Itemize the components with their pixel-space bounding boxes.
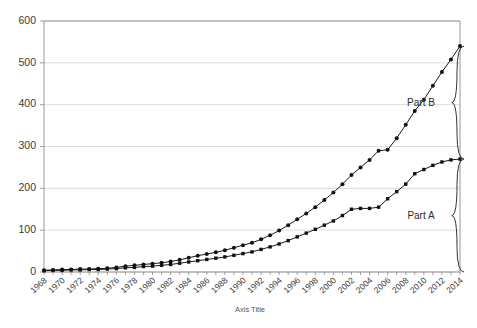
data-point [286,239,289,242]
data-point [51,269,54,272]
y-tick-label: 0 [30,265,36,277]
data-point [313,205,317,209]
data-point [151,264,154,267]
data-point [359,165,363,169]
data-point [214,250,218,254]
data-point [232,246,236,250]
line-chart: 0100200300400500600 19681970197219741976… [0,0,477,328]
data-point [187,256,191,260]
annotation-label-part-b: Part B [407,97,435,108]
data-point [42,269,45,272]
data-point [196,259,199,262]
x-tick-label: 1996 [281,275,302,295]
data-point [178,262,181,265]
data-point [350,208,353,211]
data-point [241,252,244,255]
data-point [395,136,399,140]
data-point [232,254,235,257]
data-point [205,252,209,256]
data-point [250,250,253,253]
data-point [377,149,381,153]
data-point [368,207,371,210]
data-point [431,84,435,88]
x-tick-label: 1992 [245,275,266,295]
data-point [78,268,81,271]
data-point [340,182,344,186]
x-tick-label: 1986 [191,275,212,295]
x-tick-label: 1978 [119,275,140,295]
data-point [440,160,443,163]
y-tick-label: 200 [18,181,36,193]
series-line [44,159,460,271]
data-point [196,254,200,258]
data-point [331,191,335,195]
chart-container: 0100200300400500600 19681970197219741976… [0,0,477,328]
data-point [277,229,281,233]
data-point [304,211,308,215]
data-series [42,44,462,272]
data-point [395,190,398,193]
y-tick-label: 600 [18,14,36,26]
data-point [106,267,109,270]
data-point [440,70,444,74]
data-point [250,241,254,245]
data-point [413,172,416,175]
x-tick-label: 2010 [408,275,429,295]
data-point [341,214,344,217]
x-tick-label: 1984 [173,275,194,295]
data-point [69,268,72,271]
x-tick-label: 1990 [227,275,248,295]
data-point [60,269,63,272]
x-axis-tick-labels: 1968197019721974197619781980198219841986… [28,275,465,295]
data-point [295,217,299,221]
data-point [277,242,280,245]
series-line [44,46,460,270]
data-point [97,268,100,271]
data-point [241,243,245,247]
data-point [268,245,271,248]
x-tick-label: 1994 [263,275,284,295]
data-point [449,158,452,161]
x-tick-label: 1982 [155,275,176,295]
data-point [386,197,389,200]
gridlines [40,21,460,272]
y-axis-tick-labels: 0100200300400500600 [18,14,36,277]
data-point [223,255,226,258]
data-point [160,264,163,267]
data-point [259,237,263,241]
annotation-label-part-a: Part A [407,210,435,221]
data-point [268,233,272,237]
x-tick-label: 2004 [354,275,375,295]
data-point [205,258,208,261]
data-point [332,219,335,222]
data-point [322,198,326,202]
data-point [305,231,308,234]
y-tick-label: 400 [18,97,36,109]
data-point [449,57,453,61]
series-total [42,44,462,272]
x-tick-label: 1968 [28,275,49,295]
data-point [187,260,190,263]
data-point [223,248,227,252]
x-tick-label: 1998 [299,275,320,295]
brace-part-a [452,159,464,272]
series-part-a [42,157,461,272]
y-tick-label: 300 [18,139,36,151]
y-tick-label: 500 [18,56,36,68]
data-point [368,158,372,162]
data-point [142,265,145,268]
data-point [133,266,136,269]
x-tick-label: 2006 [372,275,393,295]
x-tick-label: 1972 [64,275,85,295]
data-point [214,257,217,260]
data-point [115,267,118,270]
x-tick-label: 1988 [209,275,230,295]
data-point [323,223,326,226]
x-tick-label: 1980 [137,275,158,295]
x-tick-label: 2014 [444,275,465,295]
x-axis-tickmarks [44,272,460,275]
data-point [286,223,290,227]
data-point [377,205,380,208]
data-point [124,266,127,269]
data-point [404,182,407,185]
